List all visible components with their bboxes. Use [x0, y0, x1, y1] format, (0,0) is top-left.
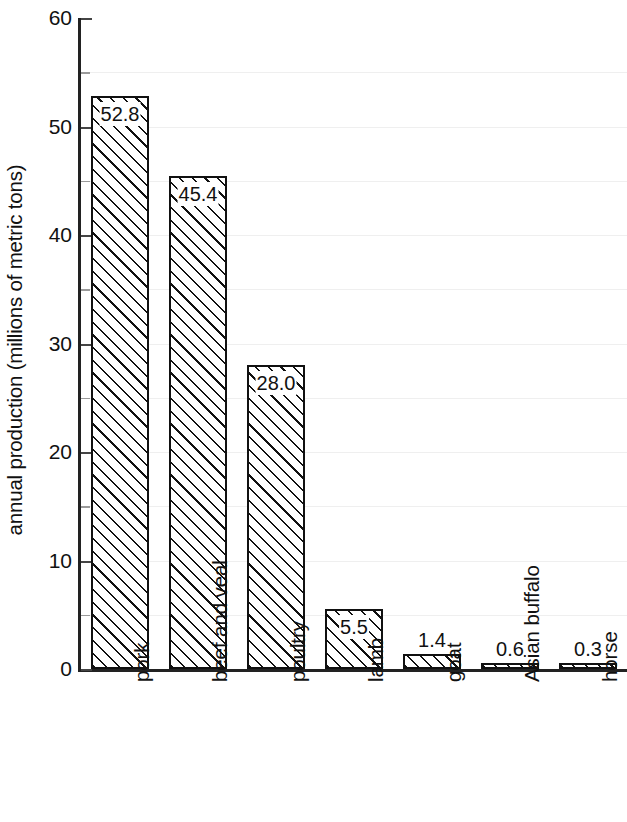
y-tick-label: 50: [49, 115, 72, 139]
y-tick-label: 40: [49, 223, 72, 247]
bar-chart: annual production (millions of metric to…: [0, 0, 627, 822]
y-tick-label: 0: [60, 657, 72, 681]
bar-group[interactable]: 52.8: [91, 96, 150, 669]
y-tick-label: 60: [49, 6, 72, 30]
bar[interactable]: 52.8: [91, 96, 150, 669]
y-tick-label: 10: [49, 549, 72, 573]
bar-value-label: 28.0: [256, 371, 297, 395]
y-tick-major: 0: [81, 669, 92, 671]
plot-area: 0102030405060 52.845.428.05.51.40.60.3: [78, 18, 627, 672]
bar-value-label: 5.5: [339, 615, 369, 639]
x-category-label: horse: [598, 631, 622, 682]
y-axis-title: annual production (millions of metric to…: [0, 0, 30, 700]
bar-value-label: 45.4: [178, 182, 219, 206]
x-category-label: poultry: [286, 621, 310, 682]
x-category-label: goat: [442, 643, 466, 683]
x-axis-line: [78, 669, 627, 672]
bar-value-label: 52.8: [100, 102, 141, 126]
x-category-label: beef and veal: [208, 560, 232, 682]
x-category-label: pork: [130, 643, 154, 682]
bar-series: 52.845.428.05.51.40.60.3: [81, 18, 627, 669]
x-category-label: Asian buffalo: [520, 565, 544, 682]
y-tick-label: 20: [49, 440, 72, 464]
x-category-label: lamb: [364, 638, 388, 682]
y-tick-label: 30: [49, 332, 72, 356]
